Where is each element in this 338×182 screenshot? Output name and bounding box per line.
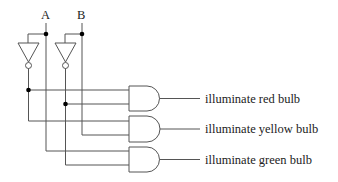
input-label-b: B: [77, 8, 85, 22]
not-gate-a-bubble: [26, 63, 32, 69]
junction-b: [80, 32, 85, 37]
junction-not-a: [26, 88, 31, 93]
and-gate-red-icon: [129, 86, 159, 111]
output-label-green: illuminate green bulb: [205, 153, 312, 167]
not-gate-b-bubble: [63, 63, 69, 69]
wire-b-to-not: [65, 34, 82, 43]
output-label-red: illuminate red bulb: [205, 92, 300, 106]
not-gate-b-icon: [55, 43, 76, 62]
not-gate-a-icon: [18, 43, 39, 62]
and-gate-green-icon: [129, 147, 159, 172]
junction-a: [44, 32, 49, 37]
output-label-yellow: illuminate yellow bulb: [205, 122, 318, 136]
wire-a-to-not: [28, 34, 46, 43]
logic-circuit-diagram: A B illuminate red bulb illuminate yello…: [0, 0, 338, 182]
junction-not-b: [63, 102, 68, 107]
and-gate-yellow-icon: [129, 116, 160, 142]
input-label-a: A: [41, 8, 50, 22]
